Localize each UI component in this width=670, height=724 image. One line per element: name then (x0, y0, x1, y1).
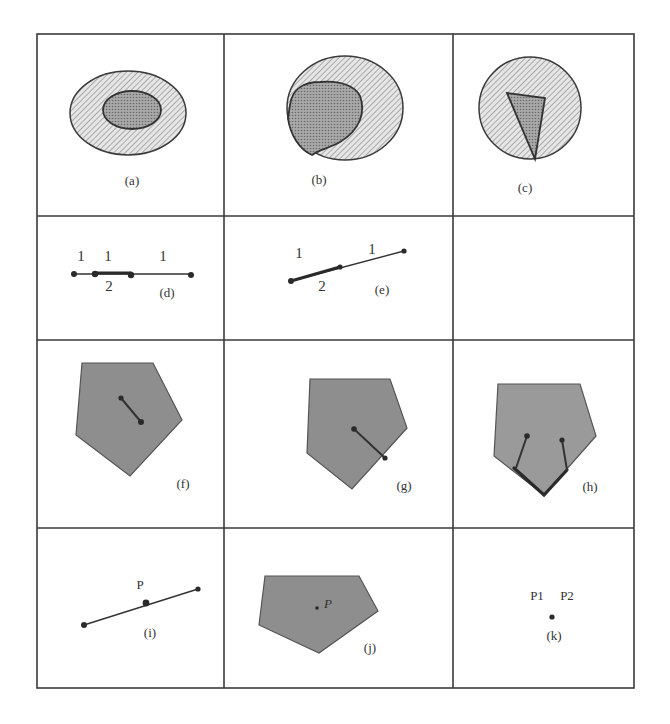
multiplicity-label: 1 (77, 248, 85, 264)
segment (84, 589, 198, 625)
panel-label-e: (e) (375, 282, 389, 297)
endpoint (559, 437, 564, 442)
panel-label-f: (f) (177, 476, 190, 491)
endpoint (288, 278, 294, 284)
point-p (143, 600, 150, 607)
panel-label-k: (k) (546, 628, 561, 643)
pentagon (259, 576, 378, 653)
endpoint (382, 455, 387, 460)
point-label-p2: P2 (560, 588, 574, 603)
panel-b: (b) (287, 56, 403, 187)
panel-i: P (i) (81, 577, 201, 640)
panel-j: P (j) (259, 576, 378, 655)
panel-f: (f) (76, 363, 190, 491)
multiplicity-label: 1 (368, 241, 376, 257)
panel-label-d: (d) (159, 285, 174, 300)
inner-ellipse (103, 91, 161, 129)
pentagon (494, 384, 596, 495)
multiplicity-label: 2 (318, 278, 326, 294)
endpoint (195, 586, 200, 591)
endpoint (524, 433, 530, 439)
panel-label-c: (c) (518, 180, 532, 195)
panel-label-h: (h) (582, 479, 597, 494)
endpoint (188, 272, 194, 278)
point-label-p1: P1 (530, 588, 544, 603)
point-label-p: P (323, 596, 332, 611)
multiplicity-label: 1 (104, 248, 112, 264)
panel-label-i: (i) (144, 625, 156, 640)
endpoint (138, 419, 144, 425)
multiplicity-label: 1 (159, 248, 167, 264)
panel-d: 1 1 1 2 (d) (71, 248, 194, 300)
endpoint (92, 271, 98, 277)
endpoint (81, 622, 87, 628)
endpoint (128, 272, 134, 278)
segment-overlap (291, 267, 340, 281)
coincident-point (549, 614, 554, 619)
panel-g: (g) (307, 379, 412, 493)
pentagon (76, 363, 182, 476)
endpoint (337, 264, 342, 269)
multiplicity-label: 2 (105, 278, 113, 294)
panel-k: P1 P2 (k) (530, 588, 574, 643)
point-p (315, 606, 319, 610)
panel-e: 1 1 2 (e) (288, 241, 407, 297)
endpoint (351, 426, 357, 432)
spatial-relations-figure: (a) (b) (c) 1 1 1 2 (d) 1 1 2 (e) (0, 0, 670, 724)
panel-label-b: (b) (311, 172, 326, 187)
endpoint (71, 271, 77, 277)
endpoint (118, 395, 123, 400)
panel-label-g: (g) (396, 478, 411, 493)
panel-a: (a) (70, 71, 186, 188)
endpoint (401, 248, 406, 253)
panel-c: (c) (479, 57, 581, 195)
multiplicity-label: 1 (295, 245, 303, 261)
panel-h: (h) (494, 384, 598, 495)
point-label-p: P (136, 577, 143, 592)
panel-label-j: (j) (364, 640, 376, 655)
pentagon (307, 379, 407, 489)
panel-label-a: (a) (125, 173, 139, 188)
